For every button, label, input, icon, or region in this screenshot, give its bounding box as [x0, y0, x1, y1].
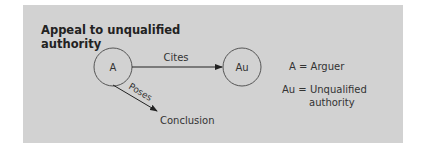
node-arguer-label: A	[110, 62, 117, 73]
node-conclusion-label: Conclusion	[160, 115, 215, 126]
legend-authority-line2: authority	[309, 97, 355, 108]
legend-authority-line1: Au = Unqualified	[282, 84, 367, 95]
edge-cites-label: Cites	[163, 52, 188, 63]
legend-arguer: A = Arguer	[289, 61, 345, 72]
edge-poses-label: Poses	[127, 81, 154, 103]
diagram-canvas: A Au Cites Poses Conclusion A = Arguer A…	[0, 0, 423, 151]
node-authority-label: Au	[235, 62, 248, 73]
